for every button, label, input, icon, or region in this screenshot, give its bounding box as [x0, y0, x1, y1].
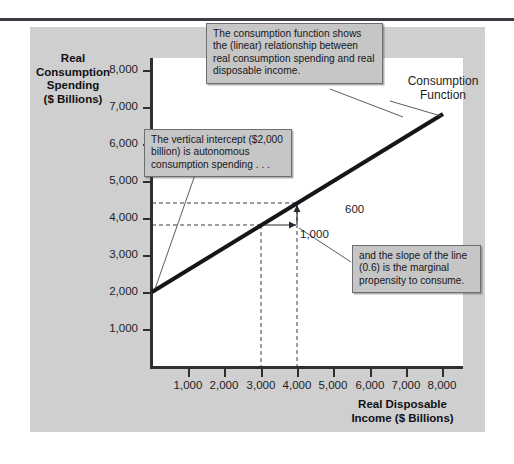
consumption-function-figure: 8,000 7,000 6,000 5,000 4,000 3,000 2,00… [0, 0, 514, 464]
rise-value-label: 600 [345, 203, 364, 215]
callout-consumption-function: The consumption function shows the (line… [206, 23, 383, 84]
leader-series-label [390, 101, 441, 116]
leader-vertical-intercept [155, 172, 196, 289]
run-value-label: 1,000 [300, 228, 329, 240]
series-label-line-2: Function [392, 88, 494, 102]
series-label-line-1: Consumption [392, 74, 494, 88]
callout-vertical-intercept: The vertical intercept ($2,000 billion) … [144, 129, 292, 177]
series-label-consumption-function: Consumption Function [392, 74, 494, 102]
callout-slope-mpc: and the slope of the line (0.6) is the m… [352, 245, 481, 293]
